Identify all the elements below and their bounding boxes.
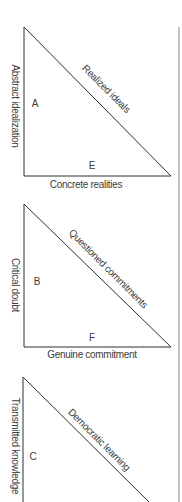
triangle-1-bottom-label: Concrete realities (50, 180, 122, 190)
triangle-1-diagonal-edge (24, 27, 171, 176)
triangle-2-bottom-letter: F (89, 333, 95, 343)
triangle-3-diagonal-edge (23, 377, 149, 502)
triangle-2-diagonal-edge (24, 204, 171, 347)
triangle-2 (24, 204, 171, 347)
triangle-1 (24, 27, 171, 176)
triangle-1-inner-letter: A (32, 99, 39, 109)
triangle-3 (23, 377, 149, 502)
triangle-3-inner-letter: C (29, 452, 36, 462)
triangle-2-vertical-label: Critical doubt (10, 258, 20, 312)
triangle-2-bottom-label: Genuine commitment (47, 350, 137, 360)
triangle-1-vertical-label: Abstract idealization (10, 64, 20, 147)
triangle-3-vertical-label: Transmitted knowledge (10, 398, 20, 495)
triangle-2-inner-letter: B (34, 277, 41, 287)
triangle-1-bottom-letter: E (89, 161, 96, 171)
